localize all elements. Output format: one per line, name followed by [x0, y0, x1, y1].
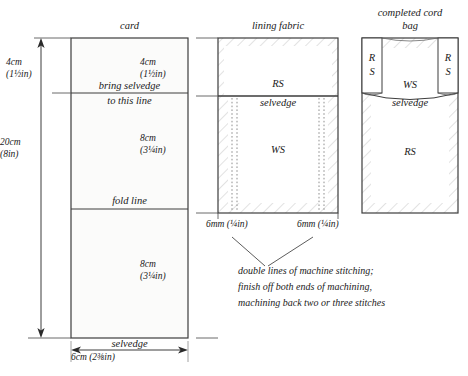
caption-line-2: finish off both ends of machining, [238, 280, 372, 295]
lining-top-dimension-cm: 4cm [140, 57, 192, 69]
caption-leader-lines [232, 237, 313, 266]
lining-fabric-panel-shape [218, 38, 338, 213]
lining-right-side-label: RS [218, 78, 338, 90]
lining-body-dimension-cm: 8cm [140, 133, 192, 145]
card-top-dimension-in: (1½in) [6, 69, 65, 81]
cord-bag-title-line1: completed cord [356, 7, 464, 19]
diagram-canvas: card lining fabric completed cord bag br… [0, 0, 468, 376]
card-height-dimension-line [37, 38, 44, 338]
cord-bag-right-flap-line1: R [438, 52, 458, 63]
card-top-dimension-cm: 4cm [6, 57, 65, 69]
cord-bag-title-line2: bag [356, 20, 464, 32]
lining-dimension-ticks [196, 38, 218, 338]
cord-bag-left-flap-line1: R [362, 52, 382, 63]
seam-allowance-left-label: 6mm (¼in) [206, 219, 248, 231]
cord-bag-selvedge-label: selvedge [362, 97, 458, 109]
card-bottom-dimension: 6cm (2⅜in) [71, 352, 188, 364]
lining-wrong-side-label: WS [218, 144, 338, 156]
card-label-bring-selvedge: bring selvedge [71, 80, 188, 92]
caption-line-3: machining back two or three stitches [238, 296, 385, 311]
total-height-dimension-in: (8in) [0, 149, 36, 161]
caption-line-1: double lines of machine stitching; [238, 264, 374, 279]
card-label-to-this-line: to this line [71, 95, 188, 107]
diagram-vector-layer [0, 0, 468, 376]
card-tick-marks [28, 38, 71, 338]
cord-bag-left-flap-line2: S [362, 66, 382, 77]
cord-bag-wrong-side-label: WS [382, 79, 438, 91]
card-label-fold-line: fold line [71, 195, 188, 207]
cord-bag-panel-shape [362, 38, 458, 213]
total-height-dimension-cm: 20cm [0, 137, 36, 149]
lining-selvedge-label: selvedge [218, 97, 338, 109]
card-panel-title: card [71, 20, 188, 32]
cord-bag-right-side-label: RS [362, 146, 458, 158]
lining-body-dimension-in: (3¼in) [140, 145, 192, 157]
seam-allowance-right-label: 6mm (¼in) [297, 219, 339, 231]
lining-top-dimension-in: (1½in) [140, 69, 192, 81]
lining-fabric-panel-title: lining fabric [218, 20, 338, 32]
card-bottom-selvedge-label: selvedge [71, 338, 188, 350]
cord-bag-right-flap-line2: S [438, 66, 458, 77]
card-lower-dimension-in: (3¼in) [140, 271, 192, 283]
card-lower-dimension-cm: 8cm [140, 259, 192, 271]
